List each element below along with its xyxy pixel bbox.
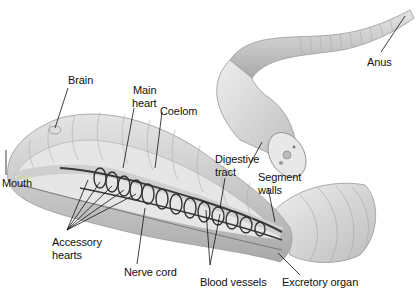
label-digestive-tract-line2: tract: [215, 166, 236, 178]
label-mouth: Mouth: [2, 177, 32, 189]
label-main-heart-line2: heart: [132, 97, 157, 109]
label-nerve-cord: Nerve cord: [124, 266, 177, 278]
earthworm-diagram: Brain Main heart Coelom Mouth Digestive …: [0, 0, 418, 290]
label-anus: Anus: [367, 56, 392, 68]
label-excretory-organ: Excretory organ: [282, 276, 358, 288]
label-accessory-hearts-line2: hearts: [52, 249, 82, 261]
label-coelom: Coelom: [160, 105, 197, 117]
label-blood-vessels: Blood vessels: [200, 276, 267, 288]
label-brain: Brain: [68, 74, 93, 86]
label-digestive-tract-line1: Digestive: [215, 153, 259, 165]
label-segment-walls-line2: walls: [258, 184, 282, 196]
label-accessory-hearts-line1: Accessory: [52, 236, 102, 248]
label-segment-walls-line1: Segment: [258, 171, 301, 183]
label-main-heart-line1: Main: [133, 84, 156, 96]
